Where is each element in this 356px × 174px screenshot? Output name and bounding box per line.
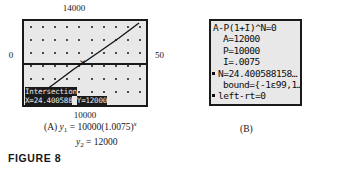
caption-a-y2-expression: = 12000 bbox=[84, 137, 118, 147]
figure-label: FIGURE 8 bbox=[8, 152, 61, 164]
solver-line-equation: A-P(1+I)^N=0 bbox=[212, 22, 300, 33]
readout-title: Intersection bbox=[25, 87, 77, 96]
solver-line-a[interactable]: A=12000 bbox=[212, 33, 300, 44]
caption-a-y1-exponent: x bbox=[134, 120, 137, 128]
caption-b: (B) bbox=[240, 124, 253, 134]
graph-axis-label-left: 0 bbox=[9, 50, 14, 60]
solver-line-n[interactable]: N=24.400588158… bbox=[212, 68, 300, 79]
calculator-graph-screen[interactable]: × Intersection X=24.400588 Y=12000 bbox=[22, 19, 148, 107]
solver-line-left-rt[interactable]: left-rt=0 bbox=[212, 90, 300, 101]
intersection-cursor-icon: × bbox=[78, 58, 87, 67]
caption-a-tag: (A) bbox=[44, 122, 60, 132]
caption-a-y2-subscript: 2 bbox=[80, 141, 84, 149]
figure-page: 14000 0 50 10000 × Intersection X=24.400… bbox=[0, 0, 356, 174]
graph-axis-label-right: 50 bbox=[155, 50, 164, 60]
readout-values-row: X=24.400588 Y=12000 bbox=[24, 97, 146, 106]
solver-line-p[interactable]: P=10000 bbox=[212, 45, 300, 56]
graph-readout: Intersection X=24.400588 Y=12000 bbox=[24, 88, 146, 105]
caption-a-line-2: y2 = 12000 bbox=[76, 137, 118, 147]
graph-axis-label-top: 14000 bbox=[63, 3, 86, 13]
solver-line-bound[interactable]: bound={-1ε99,1… bbox=[212, 79, 300, 90]
readout-y-value: Y=12000 bbox=[77, 96, 107, 105]
caption-a-y1-expression: = 10000(1.0075) bbox=[67, 122, 133, 132]
readout-x-value: X=24.400588 bbox=[25, 96, 72, 105]
solver-line-i[interactable]: I=.0075 bbox=[212, 56, 300, 67]
caption-a-line-1: (A) y1 = 10000(1.0075)x bbox=[44, 122, 137, 132]
caption-a-y1-subscript: 1 bbox=[64, 126, 68, 134]
graph-axis-label-bottom: 10000 bbox=[74, 110, 97, 120]
calculator-solver-screen[interactable]: A-P(1+I)^N=0 A=12000 P=10000 I=.0075 N=2… bbox=[209, 19, 302, 106]
